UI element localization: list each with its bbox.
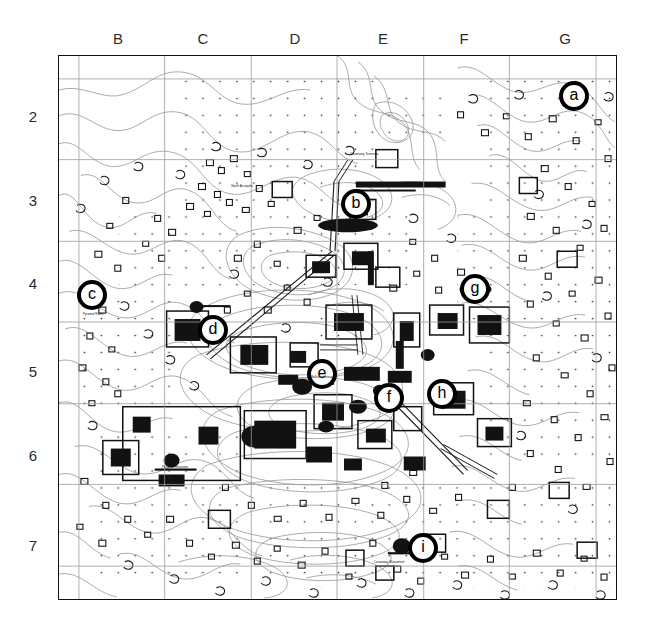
site-plan-figure: B C D E F G 2 3 4 5 6 7 [0, 0, 649, 622]
map-marker-h[interactable]: h [427, 379, 457, 409]
column-label-e: E [368, 30, 398, 47]
column-label-b: B [103, 30, 133, 47]
map-marker-i[interactable]: i [408, 533, 438, 563]
map-marker-g[interactable]: g [460, 274, 490, 304]
column-label-g: G [550, 30, 580, 47]
row-label-6: 6 [22, 447, 44, 464]
map-marker-d-label: d [209, 321, 218, 337]
map-marker-c[interactable]: c [77, 280, 107, 310]
row-label-2: 2 [22, 108, 44, 125]
map-drawing [59, 56, 616, 599]
map-marker-b-label: b [352, 195, 361, 211]
row-label-4: 4 [22, 275, 44, 292]
map-marker-c-caption: Pyramid Ruins [67, 312, 119, 316]
column-label-d: D [280, 30, 310, 47]
map-marker-e[interactable]: e [307, 359, 337, 389]
row-label-3: 3 [22, 192, 44, 209]
site-caption-ballcourt-group: Ballcourt Group [291, 375, 353, 379]
map-marker-a[interactable]: a [559, 81, 589, 111]
map-marker-a-label: a [570, 87, 579, 103]
map-frame[interactable]: a b c Pyramid Ruins d e f g h i Causeway… [58, 55, 617, 600]
site-caption-pyramid-reservoir: Pyramid Reservoir [141, 465, 209, 469]
site-caption-causeway-terminus: Causeway Terminus [331, 152, 397, 156]
map-marker-f-label: f [387, 389, 391, 405]
row-label-7: 7 [22, 537, 44, 554]
column-label-f: F [449, 30, 479, 47]
map-marker-h-label: h [438, 385, 447, 401]
map-marker-i-label: i [421, 539, 425, 555]
column-label-c: C [188, 30, 218, 47]
site-caption-north-acropolis: North Acropolis [211, 184, 273, 188]
map-marker-f[interactable]: f [374, 383, 404, 413]
map-marker-b[interactable]: b [341, 189, 371, 219]
map-marker-i-caption: Causeway Monument [359, 560, 419, 564]
row-label-5: 5 [22, 363, 44, 380]
map-marker-g-label: g [471, 280, 480, 296]
map-marker-c-label: c [88, 286, 96, 302]
map-marker-d[interactable]: d [198, 315, 228, 345]
